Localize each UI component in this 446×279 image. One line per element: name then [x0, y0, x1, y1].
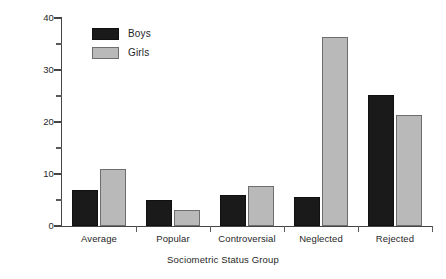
x-category-label-neglected: Neglected — [284, 233, 358, 244]
bar-controversial-boys — [220, 195, 246, 226]
y-tick-label: 20 — [28, 116, 54, 127]
bar-popular-girls — [174, 210, 200, 226]
y-tick-label: 40 — [28, 12, 54, 23]
bar-neglected-girls — [322, 37, 348, 226]
x-category-label-rejected: Rejected — [358, 233, 432, 244]
x-tick — [284, 226, 285, 232]
bar-controversial-girls — [248, 186, 274, 226]
bar-neglected-boys — [294, 197, 320, 226]
x-tick — [358, 226, 359, 232]
bar-chart-figure: Percent 010203040 AveragePopularControve… — [0, 0, 446, 279]
bar-rejected-boys — [368, 95, 394, 226]
bar-rejected-girls — [396, 115, 422, 226]
y-tick-label: 0 — [28, 220, 54, 231]
x-tick — [432, 226, 433, 232]
legend-label-boys: Boys — [128, 28, 151, 39]
y-tick-label: 30 — [28, 64, 54, 75]
bar-average-boys — [72, 190, 98, 226]
legend-swatch-girls-icon — [92, 47, 119, 59]
x-tick — [136, 226, 137, 232]
x-axis-title: Sociometric Status Group — [0, 254, 446, 265]
legend-swatch-boys-icon — [92, 28, 119, 40]
legend: Boys Girls — [92, 25, 151, 63]
x-category-label-average: Average — [62, 233, 136, 244]
y-tick-major — [54, 225, 62, 226]
bar-average-girls — [100, 169, 126, 226]
y-tick-major — [54, 17, 62, 18]
y-tick-major — [54, 69, 62, 70]
legend-item-boys: Boys — [92, 25, 151, 42]
x-category-label-popular: Popular — [136, 233, 210, 244]
y-tick-major — [54, 173, 62, 174]
x-category-label-controversial: Controversial — [210, 233, 284, 244]
legend-item-girls: Girls — [92, 44, 151, 61]
bar-popular-boys — [146, 200, 172, 226]
y-tick-major — [54, 121, 62, 122]
x-tick — [210, 226, 211, 232]
legend-label-girls: Girls — [128, 47, 149, 58]
y-tick-label: 10 — [28, 168, 54, 179]
